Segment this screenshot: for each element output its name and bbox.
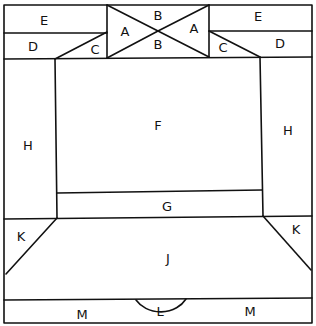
label-b-bottom: B xyxy=(154,37,163,52)
label-m-right: M xyxy=(244,304,255,319)
label-h-right: H xyxy=(283,123,293,138)
f-g-divider xyxy=(57,190,262,193)
label-k-right: K xyxy=(292,222,301,237)
label-h-left: H xyxy=(23,138,33,153)
label-e-left: E xyxy=(40,13,48,28)
j-m-divider xyxy=(4,298,312,300)
ab-diag-1 xyxy=(107,5,158,31)
label-a-right: A xyxy=(190,21,199,36)
label-l: L xyxy=(156,304,164,319)
label-a-left: A xyxy=(121,24,130,39)
h-left-inner-edge xyxy=(55,59,57,218)
label-e-right: E xyxy=(254,9,262,24)
label-c-right: C xyxy=(218,40,227,55)
quilt-diagram: E E D D C C A A B B F H H G K K J M M L xyxy=(0,0,316,326)
label-b-top: B xyxy=(154,8,163,23)
ab-diag-2 xyxy=(107,31,158,58)
label-k-left: K xyxy=(17,229,26,244)
k-diag-left xyxy=(6,218,57,274)
label-j: J xyxy=(165,251,170,266)
h-right-inner-edge xyxy=(260,57,263,216)
label-g: G xyxy=(162,199,172,214)
label-c-left: C xyxy=(90,42,99,57)
ab-diag-3 xyxy=(158,5,209,31)
k-diag-right xyxy=(263,216,311,270)
c-diag-right xyxy=(209,31,260,57)
label-m-left: M xyxy=(76,307,87,322)
label-d-left: D xyxy=(28,39,38,54)
outer-border xyxy=(4,5,312,323)
label-d-right: D xyxy=(275,36,285,51)
label-f: F xyxy=(154,118,161,133)
top-band-bottom-line xyxy=(4,57,312,59)
ab-diag-4 xyxy=(158,31,209,57)
